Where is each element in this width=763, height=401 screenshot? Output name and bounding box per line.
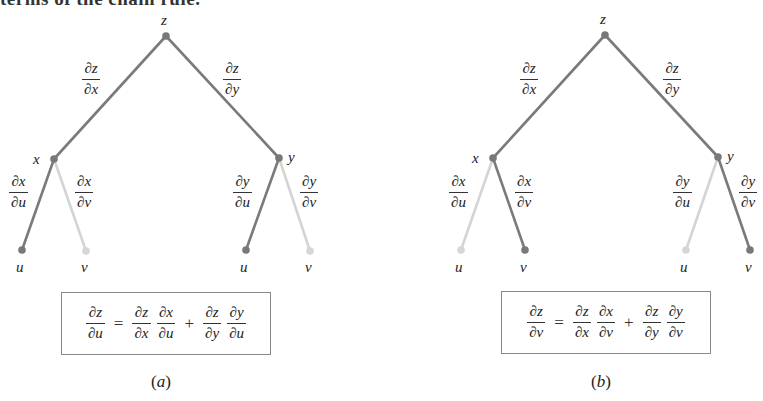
caption-b: (b) bbox=[591, 372, 611, 392]
edge-label-a-dy-dv: ∂y∂v bbox=[300, 174, 318, 211]
node-label-a-v1: v bbox=[81, 260, 88, 275]
eq-a-t1-f1: ∂z∂x bbox=[132, 305, 150, 342]
eq-b-plus: + bbox=[624, 313, 634, 333]
eq-a-lhs: ∂z∂u bbox=[86, 305, 105, 342]
eq-a-plus: + bbox=[184, 314, 194, 334]
node-a-z bbox=[162, 32, 170, 40]
node-label-a-u1: u bbox=[16, 260, 24, 275]
node-label-a-y: y bbox=[288, 150, 295, 165]
node-b-u1 bbox=[457, 246, 465, 254]
node-b-v1 bbox=[521, 246, 529, 254]
node-a-u1 bbox=[18, 246, 26, 254]
node-label-b-u2: u bbox=[680, 260, 688, 275]
eq-a-t2-f1: ∂z∂y bbox=[203, 305, 221, 342]
eq-b-lhs: ∂z∂v bbox=[527, 304, 545, 341]
eq-a-t2-f2: ∂y∂u bbox=[227, 305, 246, 342]
node-label-a-z: z bbox=[161, 13, 167, 28]
edge-label-b-dy-dv: ∂y∂v bbox=[739, 174, 757, 211]
node-b-z bbox=[601, 31, 609, 39]
node-a-v2 bbox=[306, 247, 314, 255]
node-label-b-z: z bbox=[600, 12, 606, 27]
edge-label-a-dx-du: ∂x∂u bbox=[9, 174, 28, 211]
edge-label-b-dy-du: ∂y∂u bbox=[673, 174, 692, 211]
node-label-b-x: x bbox=[472, 151, 479, 166]
edge-label-a-dy-du: ∂y∂u bbox=[233, 174, 252, 211]
edge-label-b-dx-dv: ∂x∂v bbox=[515, 174, 533, 211]
node-b-y bbox=[714, 153, 722, 161]
tree-b bbox=[457, 31, 754, 254]
node-label-a-x: x bbox=[33, 152, 40, 167]
eq-b-equals: = bbox=[554, 313, 564, 333]
node-a-x bbox=[50, 155, 58, 163]
chain-rule-equation-b: ∂z∂v = ∂z∂x ∂x∂v + ∂z∂y ∂y∂v bbox=[501, 291, 711, 354]
eq-b-t2-f1: ∂z∂y bbox=[643, 304, 661, 341]
edge-label-b-dz-dx: ∂z∂x bbox=[520, 61, 538, 98]
node-a-u2 bbox=[242, 246, 250, 254]
eq-a-t1-f2: ∂x∂u bbox=[157, 305, 176, 342]
caption-a: (a) bbox=[151, 372, 171, 392]
edge-label-a-dx-dv: ∂x∂v bbox=[75, 174, 93, 211]
edge-label-b-dz-dy: ∂z∂y bbox=[663, 61, 681, 98]
chain-rule-equation-a: ∂z∂u = ∂z∂x ∂x∂u + ∂z∂y ∂y∂u bbox=[61, 292, 271, 355]
edge-label-a-dz-dx: ∂z∂x bbox=[82, 61, 100, 98]
node-label-b-v1: v bbox=[520, 260, 527, 275]
eq-b-t1-f2: ∂x∂v bbox=[597, 304, 615, 341]
edge-b-z-x bbox=[493, 35, 605, 158]
node-label-a-v2: v bbox=[305, 260, 312, 275]
node-b-v2 bbox=[746, 246, 754, 254]
node-a-y bbox=[275, 154, 283, 162]
edge-a-z-x bbox=[54, 36, 166, 159]
node-a-v1 bbox=[82, 247, 90, 255]
edge-label-b-dx-du: ∂x∂u bbox=[449, 174, 468, 211]
tree-a bbox=[18, 32, 314, 255]
edge-label-a-dz-dy: ∂z∂y bbox=[223, 61, 241, 98]
node-label-a-u2: u bbox=[240, 260, 248, 275]
eq-a-equals: = bbox=[114, 314, 124, 334]
eq-b-t1-f1: ∂z∂x bbox=[573, 304, 591, 341]
eq-b-t2-f2: ∂y∂v bbox=[667, 304, 685, 341]
node-b-x bbox=[489, 154, 497, 162]
node-label-b-y: y bbox=[727, 149, 734, 164]
node-b-u2 bbox=[682, 246, 690, 254]
node-label-b-u1: u bbox=[455, 260, 463, 275]
edge-b-z-y bbox=[605, 35, 718, 157]
node-label-b-v2: v bbox=[745, 260, 752, 275]
